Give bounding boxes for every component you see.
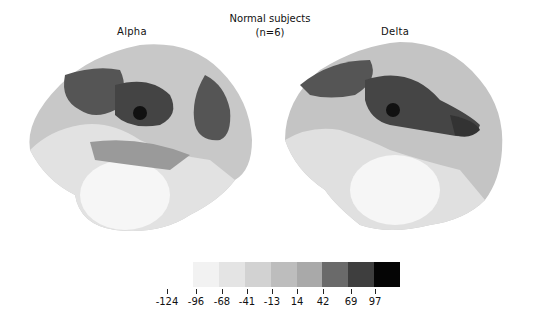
legend-bin-5: [297, 262, 323, 287]
legend-tick: [351, 289, 352, 294]
legend-tick-label: -96: [188, 296, 204, 307]
legend-bin-2: [219, 262, 245, 287]
legend-tick: [167, 289, 168, 294]
legend-tick: [222, 289, 223, 294]
legend-tick: [247, 289, 248, 294]
legend-tick: [323, 289, 324, 294]
legend-bin-7: [348, 262, 374, 287]
legend-tick-label: 97: [369, 296, 382, 307]
legend-tick-label: -13: [264, 296, 280, 307]
legend-colorbar: [193, 262, 400, 287]
legend-tick: [297, 289, 298, 294]
legend-bin-6: [322, 262, 348, 287]
legend-tick-label: -68: [214, 296, 230, 307]
legend-bin-1: [193, 262, 219, 287]
legend-tick-label: 42: [317, 296, 330, 307]
legend-bin-8: [374, 262, 400, 287]
delta-brain-map: [270, 30, 520, 250]
legend-bin-4: [271, 262, 297, 287]
legend-bin-3: [245, 262, 271, 287]
legend-tick: [272, 289, 273, 294]
legend-tick-label: 69: [345, 296, 358, 307]
alpha-brain-map: [20, 30, 270, 250]
legend-tick-label: 14: [291, 296, 304, 307]
legend-tick-label: -124: [156, 296, 179, 307]
title-line-1: Normal subjects: [190, 12, 350, 26]
legend-tick: [375, 289, 376, 294]
legend-tick: [196, 289, 197, 294]
legend-tick-label: -41: [239, 296, 255, 307]
